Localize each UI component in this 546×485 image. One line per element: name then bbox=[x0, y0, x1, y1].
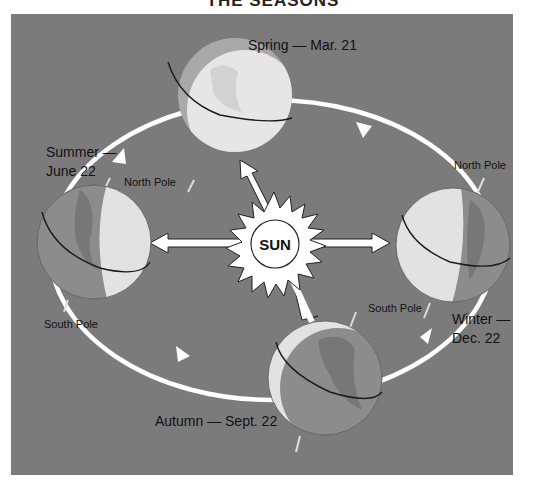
seasons-diagram: SUN bbox=[0, 0, 546, 485]
orbit-arrow-icon bbox=[420, 328, 432, 344]
spring-label: Spring — Mar. 21 bbox=[248, 37, 357, 53]
globe-autumn bbox=[268, 312, 396, 452]
summer-label-line1: Summer — bbox=[46, 144, 117, 160]
summer-north-pole-label: North Pole bbox=[124, 176, 176, 188]
globe-spring bbox=[168, 38, 303, 192]
orbit-arrow-icon bbox=[356, 122, 372, 138]
summer-label-line2: June 22 bbox=[46, 163, 96, 179]
orbit-arrow-icon bbox=[176, 346, 190, 362]
winter-north-pole-label: North Pole bbox=[454, 159, 506, 171]
winter-label-line2: Dec. 22 bbox=[452, 330, 500, 346]
sun-label: SUN bbox=[259, 236, 291, 253]
autumn-label: Autumn — Sept. 22 bbox=[155, 413, 277, 429]
winter-label-line1: Winter — bbox=[452, 311, 510, 327]
globe-summer bbox=[30, 178, 151, 312]
globe-winter bbox=[396, 178, 520, 318]
winter-south-pole-label: South Pole bbox=[368, 302, 422, 314]
summer-south-pole-label: South Pole bbox=[44, 318, 98, 330]
